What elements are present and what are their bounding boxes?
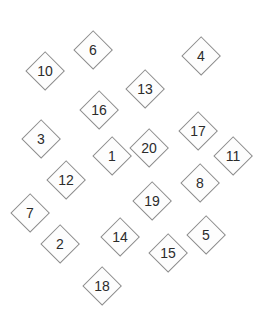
diamond-shape[interactable]	[181, 36, 221, 76]
diamond-shape[interactable]	[125, 69, 165, 109]
diamond-shape[interactable]	[148, 233, 188, 273]
diamond-shape[interactable]	[21, 119, 61, 159]
diamond-shape[interactable]	[100, 217, 140, 257]
diamond-shape[interactable]	[46, 160, 86, 200]
diamond-shape[interactable]	[82, 266, 122, 306]
diamond-shape[interactable]	[186, 215, 226, 255]
diamond-shape[interactable]	[73, 30, 113, 70]
diamond-shape[interactable]	[79, 90, 119, 130]
diamond-shape[interactable]	[180, 163, 220, 203]
diamond-shape[interactable]	[25, 51, 65, 91]
diamond-shape[interactable]	[92, 136, 132, 176]
diagram-canvas: 106413163172011112819714521518	[0, 0, 265, 318]
diamond-shape[interactable]	[178, 111, 218, 151]
diamond-shape[interactable]	[132, 181, 172, 221]
diamond-shape[interactable]	[40, 224, 80, 264]
diamond-shape[interactable]	[213, 136, 253, 176]
diamond-shape[interactable]	[10, 193, 50, 233]
diamond-shape[interactable]	[129, 128, 169, 168]
